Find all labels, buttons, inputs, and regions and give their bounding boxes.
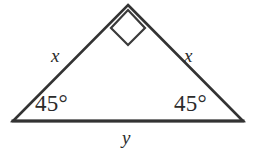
geometry-figure: x x y 45° 45° [0,0,257,159]
side-label-left-leg: x [51,46,59,65]
angle-label-bottom-left: 45° [35,92,68,115]
side-label-right-leg: x [184,46,192,65]
side-label-base: y [122,128,130,147]
angle-label-bottom-right: 45° [174,92,207,115]
